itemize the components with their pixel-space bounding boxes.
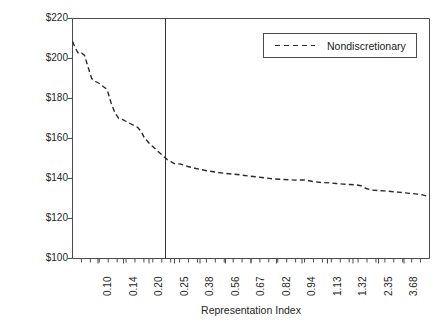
legend-entry-label: Nondiscretionary (327, 40, 406, 52)
legend-box: Nondiscretionary (263, 33, 417, 58)
legend-dashed-line-swatch (275, 45, 315, 46)
chart-figure: Per Capita Outlays Representation Index … (0, 0, 445, 324)
series-line-nondiscretionary (73, 42, 430, 197)
